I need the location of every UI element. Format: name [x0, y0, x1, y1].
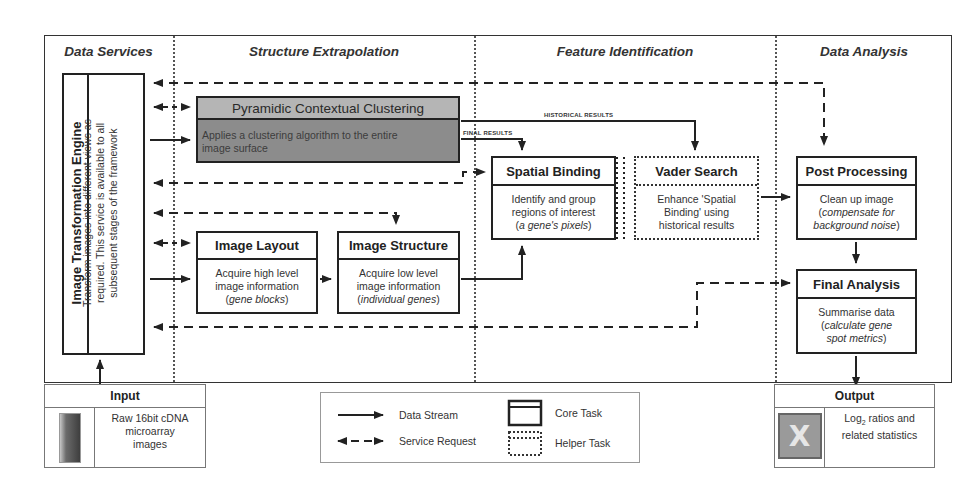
output-description-line: Log2 ratios and: [825, 412, 934, 429]
input-panel: Input Raw 16bit cDNA microarray images: [44, 384, 206, 468]
legend: Data Stream Service Request Core Task He…: [320, 392, 640, 463]
dotted-box-icon: [509, 432, 541, 455]
input-description-line: images: [95, 438, 205, 451]
microarray-image-icon: [45, 408, 95, 467]
legend-label-data-stream: Data Stream: [399, 409, 458, 421]
helper-link: [617, 157, 624, 239]
legend-icons: [321, 393, 641, 464]
input-description-line: microarray: [95, 425, 205, 438]
output-description-line: related statistics: [825, 429, 934, 442]
legend-label-helper-task: Helper Task: [555, 437, 610, 449]
legend-label-service-request: Service Request: [399, 435, 476, 447]
data-stream-arrows: [100, 121, 856, 386]
service-request-arrows: [154, 83, 824, 327]
output-panel: Output X Log2 ratios and related statist…: [774, 384, 935, 468]
spreadsheet-icon: X: [775, 408, 825, 467]
input-title: Input: [45, 385, 205, 408]
output-title: Output: [775, 385, 934, 408]
solid-box-icon: [509, 401, 541, 425]
input-description-line: Raw 16bit cDNA: [95, 412, 205, 425]
legend-label-core-task: Core Task: [555, 407, 602, 419]
